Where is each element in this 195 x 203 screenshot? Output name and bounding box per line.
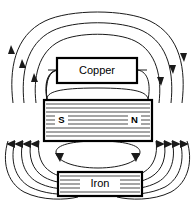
iron-block[interactable]: Iron [58,172,142,196]
lower-right-arrows [156,140,189,148]
south-pole-label: S [58,114,64,125]
arrow-left-1 [6,140,15,148]
magnetic-flux-diagram: Copper S N [0,0,195,203]
north-pole-label: N [131,114,138,125]
arrow-up-2 [19,59,26,68]
arrow-down-3 [157,77,164,86]
arrow-right-1 [180,140,189,148]
flux-line-upper-4-left [46,70,57,100]
arrow-up-1 [8,45,15,54]
upper-left-arrows [8,45,38,82]
iron-block-label: Iron [91,177,110,189]
copper-block[interactable]: Copper [57,58,137,83]
magnet-block[interactable]: S N [44,100,152,141]
flux-line-inner-ellipse [56,141,140,168]
arrow-inner-right [131,153,140,162]
inner-flux-loop [55,141,140,168]
copper-block-label: Copper [79,64,115,76]
flux-line-under-copper [47,88,148,100]
lower-left-arrows [6,140,39,148]
flux-line-upper-4-right [138,70,149,100]
flux-diagram-canvas: Copper S N [0,0,195,203]
